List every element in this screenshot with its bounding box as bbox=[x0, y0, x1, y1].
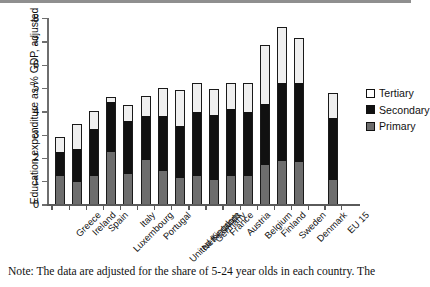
legend-swatch-tertiary bbox=[366, 89, 375, 98]
x-tick bbox=[103, 206, 104, 210]
bar-segment-tertiary bbox=[328, 93, 338, 119]
y-tick-label: 5 bbox=[23, 82, 39, 93]
legend-item: Primary bbox=[366, 119, 430, 133]
bar-segment-secondary bbox=[106, 102, 116, 152]
bar-segment-primary bbox=[123, 174, 133, 204]
bar-segment-primary bbox=[158, 171, 168, 205]
bar-segment-primary bbox=[175, 178, 185, 205]
y-tick-label: 3 bbox=[23, 129, 39, 140]
y-tick bbox=[42, 204, 47, 205]
y-tick bbox=[42, 158, 47, 159]
bar bbox=[209, 89, 219, 204]
y-axis-line bbox=[47, 18, 49, 206]
y-tick bbox=[42, 111, 47, 112]
bar-segment-tertiary bbox=[89, 111, 99, 128]
header-rule bbox=[0, 0, 411, 3]
bar bbox=[226, 83, 236, 204]
bar-segment-primary bbox=[209, 180, 219, 204]
bar bbox=[192, 83, 202, 204]
x-tick bbox=[51, 206, 52, 210]
x-tick bbox=[324, 206, 325, 210]
y-tick-label: 8 bbox=[23, 13, 39, 24]
bar-segment-secondary bbox=[226, 109, 236, 177]
bar-segment-tertiary bbox=[141, 96, 151, 116]
bar-segment-secondary bbox=[260, 104, 270, 165]
bar bbox=[328, 93, 338, 205]
y-tick bbox=[42, 88, 47, 89]
bar-segment-primary bbox=[55, 176, 65, 204]
bar-segment-secondary bbox=[123, 121, 133, 175]
bar bbox=[260, 45, 270, 205]
x-tick bbox=[325, 206, 326, 210]
bar-segment-tertiary bbox=[123, 105, 133, 120]
bar-segment-primary bbox=[106, 152, 116, 204]
x-tick bbox=[188, 206, 189, 210]
x-tick bbox=[291, 206, 292, 210]
bar-segment-tertiary bbox=[260, 45, 270, 104]
y-tick-label: 2 bbox=[23, 152, 39, 163]
x-tick bbox=[205, 206, 206, 210]
legend-item: Secondary bbox=[366, 103, 430, 117]
bar bbox=[89, 111, 99, 204]
legend-label: Tertiary bbox=[379, 86, 414, 100]
x-tick bbox=[222, 206, 223, 210]
bar-segment-tertiary bbox=[209, 89, 219, 115]
y-tick bbox=[42, 65, 47, 66]
y-tick-label: 6 bbox=[23, 59, 39, 70]
y-tick bbox=[42, 18, 47, 19]
bar-segment-tertiary bbox=[226, 83, 236, 109]
x-tick bbox=[86, 206, 87, 210]
bar bbox=[106, 97, 116, 204]
chart-figure: Education expenditure as % GDP, adjusted… bbox=[0, 6, 411, 256]
x-tick bbox=[171, 206, 172, 210]
bar-segment-tertiary bbox=[158, 88, 168, 116]
bar-segment-secondary bbox=[141, 116, 151, 160]
y-tick-label: 1 bbox=[23, 176, 39, 187]
bar bbox=[175, 90, 185, 204]
x-axis-line bbox=[47, 204, 360, 206]
y-tick bbox=[42, 135, 47, 136]
bar-segment-secondary bbox=[294, 83, 304, 162]
x-tick bbox=[274, 206, 275, 210]
bar bbox=[277, 27, 287, 204]
bar-segment-secondary bbox=[243, 112, 253, 177]
bar-segment-primary bbox=[277, 161, 287, 204]
bar-segment-primary bbox=[141, 160, 151, 204]
bar-segment-primary bbox=[328, 180, 338, 204]
bar-segment-secondary bbox=[192, 112, 202, 176]
bar-segment-secondary bbox=[55, 152, 65, 176]
bar-segment-tertiary bbox=[243, 83, 253, 111]
bar-segment-tertiary bbox=[277, 27, 287, 83]
bar-segment-secondary bbox=[89, 129, 99, 177]
bar-segment-primary bbox=[192, 176, 202, 204]
bar bbox=[123, 105, 133, 204]
x-tick bbox=[137, 206, 138, 210]
bar bbox=[72, 124, 82, 204]
figure-note: Note: The data are adjusted for the shar… bbox=[8, 265, 404, 279]
x-tick bbox=[69, 206, 70, 210]
plot-area: 012345678 bbox=[47, 18, 360, 206]
bar bbox=[55, 137, 65, 205]
bar bbox=[158, 88, 168, 204]
bar-segment-primary bbox=[243, 176, 253, 204]
x-tick bbox=[257, 206, 258, 210]
legend-label: Secondary bbox=[379, 103, 430, 117]
y-tick bbox=[42, 181, 47, 182]
bar-segment-secondary bbox=[328, 118, 338, 180]
bar-segment-primary bbox=[226, 176, 236, 204]
bar-segment-secondary bbox=[209, 115, 219, 180]
x-tick bbox=[154, 206, 155, 210]
y-tick-label: 7 bbox=[23, 36, 39, 47]
x-tick bbox=[308, 206, 309, 210]
bar-segment-secondary bbox=[158, 116, 168, 170]
bar-segment-tertiary bbox=[72, 124, 82, 148]
bar bbox=[141, 96, 151, 204]
chart-legend: TertiarySecondaryPrimary bbox=[366, 86, 430, 136]
bar bbox=[243, 83, 253, 204]
y-tick bbox=[42, 41, 47, 42]
bar-segment-tertiary bbox=[192, 83, 202, 112]
y-tick-label: 0 bbox=[23, 199, 39, 210]
x-axis-label: EU 15 bbox=[345, 210, 370, 235]
bar-segment-secondary bbox=[72, 149, 82, 183]
bar-segment-tertiary bbox=[55, 137, 65, 152]
